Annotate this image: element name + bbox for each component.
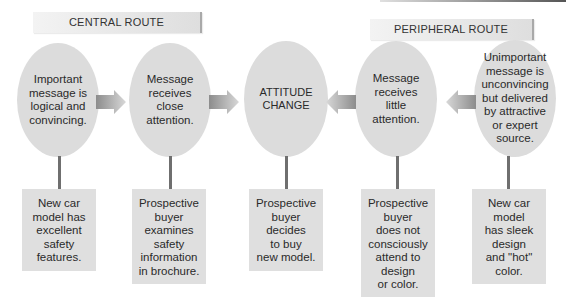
node-text: Important message is logical and convinc… [29,73,87,127]
node-central-logical-message: Important message is logical and convinc… [17,43,99,157]
connector-line [169,156,172,189]
example-text: Prospective buyer does not consciously a… [368,197,428,292]
example-text: New car model has sleek design and "hot"… [485,197,534,278]
node-text: Unimportant message is unconvincing but … [481,51,548,146]
arrow-right-icon [209,90,239,114]
arrow-left-icon [446,90,476,114]
connector-line [285,156,288,189]
node-text: Message receives close attention. [146,73,193,127]
example-box-not-consciously-attend: Prospective buyer does not consciously a… [361,189,435,297]
example-text: Prospective buyer decides to buy new mod… [256,197,316,265]
example-box-examines-brochure: Prospective buyer examines safety inform… [132,189,206,284]
connector-line [507,156,510,189]
example-text: Prospective buyer examines safety inform… [139,197,200,278]
example-box-decides-to-buy: Prospective buyer decides to buy new mod… [249,189,323,271]
example-box-safety-features: New car model has excellent safety featu… [22,189,96,271]
connector-line [58,156,61,189]
connector-line [396,156,399,189]
node-peripheral-unimportant-message: Unimportant message is unconvincing but … [474,40,556,157]
arrow-left-icon [326,90,356,114]
top-border-line [380,0,566,2]
node-peripheral-little-attention: Message receives little attention. [355,41,437,157]
arrow-right-icon [96,90,126,114]
example-box-sleek-design: New car model has sleek design and "hot"… [472,189,546,284]
node-text: ATTITUDE CHANGE [260,86,313,113]
peripheral-route-label: PERIPHERAL ROUTE [370,19,534,40]
example-text: New car model has excellent safety featu… [32,197,85,265]
node-attitude-change: ATTITUDE CHANGE [244,41,328,157]
node-text: Message receives little attention. [372,72,419,126]
central-route-label: CENTRAL ROUTE [33,12,202,33]
node-central-close-attention: Message receives close attention. [129,43,211,157]
